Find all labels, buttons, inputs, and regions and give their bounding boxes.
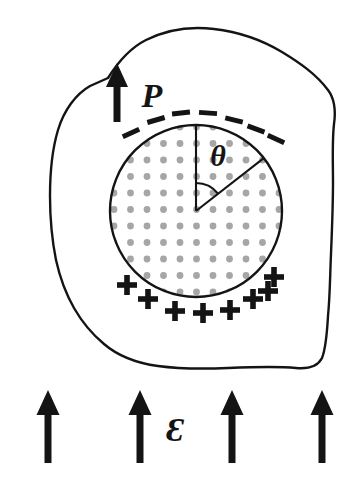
polarization-dot (160, 190, 167, 197)
field-arrow-2-head (129, 390, 152, 415)
polarization-dot (144, 256, 151, 263)
polarization-dot (144, 206, 151, 213)
polarization-dot (177, 190, 184, 197)
field-arrow-3-head (221, 390, 244, 415)
plus-sign-vertical (265, 281, 271, 301)
field-arrow-2 (129, 390, 152, 463)
polarization-dot (177, 256, 184, 263)
plus-sign-vertical (172, 301, 178, 321)
dielectric-medium-outline (50, 28, 335, 369)
polarization-dot (226, 223, 233, 230)
polarization-dot (210, 173, 217, 180)
polarization-dot (160, 239, 167, 246)
polarization-dot (127, 256, 134, 263)
polarization-dot (259, 206, 266, 213)
polarization-dot (193, 256, 200, 263)
polarization-dot (177, 173, 184, 180)
polarization-dot (160, 206, 167, 213)
polarization-dot (193, 289, 200, 296)
polarization-dot (243, 223, 250, 230)
polarization-dot (226, 190, 233, 197)
field-arrow-4-head (311, 390, 334, 415)
plus-sign-vertical (124, 275, 130, 295)
polarization-dot (243, 256, 250, 263)
field-arrow-1 (37, 390, 60, 463)
polarization-dot (127, 239, 134, 246)
polarization-dot (144, 173, 151, 180)
polarization-dot (127, 190, 134, 197)
polarization-dot (177, 272, 184, 279)
polarization-dot (210, 206, 217, 213)
polarization-dot (111, 206, 118, 213)
polarization-dot (127, 206, 134, 213)
polarization-dot (127, 223, 134, 230)
external-field-arrows (37, 390, 334, 463)
polarization-dot (177, 239, 184, 246)
field-arrow-4 (311, 390, 334, 463)
plus-sign-vertical (227, 300, 233, 320)
polarization-dot (259, 173, 266, 180)
polarization-dot (226, 272, 233, 279)
polarization-dot (226, 140, 233, 147)
polarization-dot (127, 173, 134, 180)
field-arrow-3 (221, 390, 244, 463)
polarization-label: P (141, 77, 163, 114)
polarization-dot (210, 256, 217, 263)
plus-sign-vertical (250, 289, 256, 309)
polarization-dot (193, 272, 200, 279)
polarization-dot (259, 223, 266, 230)
figure-canvas: P θ Ɛ (0, 0, 360, 489)
polarization-dot (210, 223, 217, 230)
polarization-dot (193, 239, 200, 246)
polarization-dot (144, 223, 151, 230)
polarization-dot (177, 223, 184, 230)
polarization-dot (226, 256, 233, 263)
polarization-dot (160, 223, 167, 230)
external-field-label: Ɛ (166, 411, 184, 448)
plus-sign-vertical (271, 267, 277, 287)
polarization-dot (160, 256, 167, 263)
polarization-dot (177, 140, 184, 147)
polarization-dot (210, 239, 217, 246)
theta-angle-label: θ (210, 139, 226, 172)
polarization-dot (259, 190, 266, 197)
polarization-dot (144, 272, 151, 279)
polarization-dot (177, 206, 184, 213)
physics-diagram: P θ Ɛ (0, 0, 360, 489)
polarization-dot (160, 173, 167, 180)
polarization-dot (144, 190, 151, 197)
polarization-dot (226, 206, 233, 213)
polarization-dot (144, 239, 151, 246)
polarization-dot (160, 157, 167, 164)
plus-sign-vertical (145, 289, 151, 309)
polarization-dot (243, 239, 250, 246)
polarization-dot (210, 272, 217, 279)
polarization-dot (160, 272, 167, 279)
polarization-dot (226, 239, 233, 246)
polarization-dot (259, 239, 266, 246)
polarization-dot (160, 140, 167, 147)
polarization-dot (243, 157, 250, 164)
field-arrow-1-head (37, 390, 60, 415)
polarization-dot (144, 157, 151, 164)
plus-sign-vertical (200, 303, 206, 323)
polarization-dot (243, 190, 250, 197)
polarization-dot (226, 173, 233, 180)
polarization-dot (177, 157, 184, 164)
polarization-dot (243, 206, 250, 213)
polarization-dot (226, 157, 233, 164)
polarization-dot (193, 223, 200, 230)
